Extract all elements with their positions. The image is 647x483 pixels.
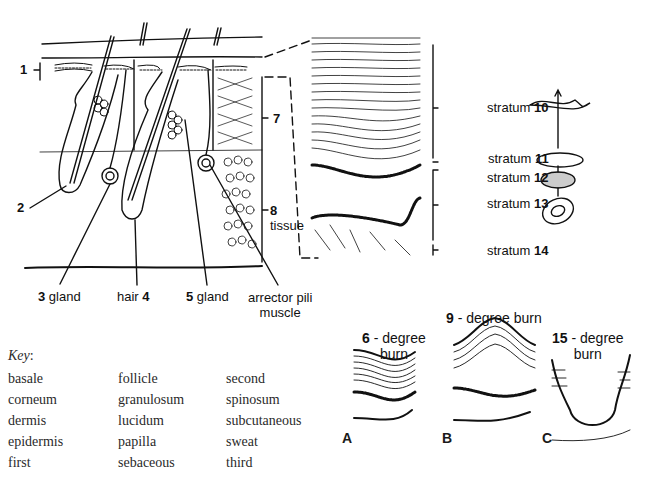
key-word: second (226, 369, 336, 389)
key-word: corneum (8, 390, 118, 410)
key-word-grid: basale follicle second corneum granulosu… (8, 369, 336, 473)
key-word: dermis (8, 411, 118, 431)
key-word: sebaceous (118, 453, 226, 473)
label-3-gland: 3 gland (38, 290, 81, 304)
label-5-gland: 5 gland (186, 290, 229, 304)
panel-letter-a: A (342, 430, 352, 446)
key-word: subcutaneous (226, 411, 336, 431)
key-word: third (226, 453, 336, 473)
key-word: papilla (118, 432, 226, 452)
key-word: follicle (118, 369, 226, 389)
key-title: Key: (8, 348, 336, 364)
label-7: 7 (273, 112, 280, 126)
label-1: 1 (20, 63, 27, 77)
label-burn-a: 6 - degree burn (362, 330, 426, 362)
key-word: epidermis (8, 432, 118, 452)
label-8-tissue: 8 tissue (270, 203, 304, 233)
panel-letter-b: B (442, 430, 452, 446)
word-key: Key: basale follicle second corneum gran… (8, 348, 336, 473)
label-4-hair: hair 4 (117, 290, 150, 304)
label-stratum-14: stratum 14 (487, 244, 548, 258)
key-word: sweat (226, 432, 336, 452)
key-word: first (8, 453, 118, 473)
label-2: 2 (17, 201, 24, 215)
panel-letter-c: C (542, 430, 552, 446)
label-stratum-10: stratum 10 (487, 101, 548, 115)
label-stratum-13: stratum 13 (487, 197, 548, 211)
key-word: granulosum (118, 390, 226, 410)
key-word: basale (8, 369, 118, 389)
key-word: lucidum (118, 411, 226, 431)
label-arrector-pili-muscle: arrector pili muscle (248, 290, 312, 320)
label-stratum-11: stratum 11 (488, 152, 549, 166)
key-word: spinosum (226, 390, 336, 410)
label-burn-b: 9 - degree burn (446, 311, 542, 325)
label-stratum-12: stratum 12 (487, 171, 548, 185)
label-burn-c: 15 - degree burn (552, 330, 624, 362)
